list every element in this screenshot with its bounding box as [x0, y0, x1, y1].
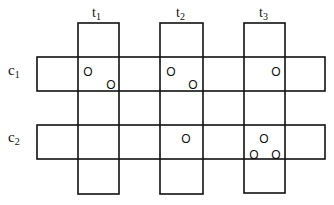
- marker-c1-t2: O: [166, 65, 175, 79]
- row-band-c1: [37, 57, 325, 91]
- column-label-t3: t3: [259, 5, 268, 22]
- column-label-t1: t1: [92, 5, 101, 22]
- row-label-c1: c1: [8, 62, 20, 80]
- marker-c2-t3: O: [259, 132, 268, 146]
- grid-diagram: t1 t2 t3 c1 c2 OOOOOOOOO: [0, 0, 334, 205]
- marker-group: OOOOOOOOO: [83, 65, 280, 162]
- marker-c1-t2: O: [188, 78, 197, 92]
- marker-c2-t3: O: [249, 148, 258, 162]
- column-band-t2: [160, 23, 203, 194]
- marker-c1-t1: O: [106, 78, 115, 92]
- column-band-t1: [78, 23, 119, 194]
- marker-c2-t3: O: [271, 148, 280, 162]
- column-label-t2: t2: [176, 5, 185, 22]
- row-label-c2: c2: [8, 129, 20, 147]
- column-band-t3: [244, 23, 285, 193]
- marker-c1-t3: O: [271, 65, 280, 79]
- marker-c1-t1: O: [83, 65, 92, 79]
- marker-c2-t2: O: [181, 132, 190, 146]
